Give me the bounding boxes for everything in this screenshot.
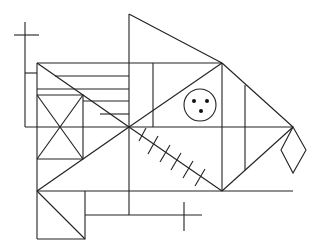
bottom-cross: [85, 202, 202, 231]
left-rectangle: [37, 63, 293, 239]
bottom-square: [37, 191, 85, 239]
hatched-diagonal: [129, 127, 222, 191]
circle-with-three-dots: [184, 89, 216, 121]
top-left-cross: [14, 22, 39, 127]
figure-canvas: [0, 0, 319, 249]
complex-figure-drawing: [0, 0, 319, 249]
top-triangle: [129, 14, 222, 63]
